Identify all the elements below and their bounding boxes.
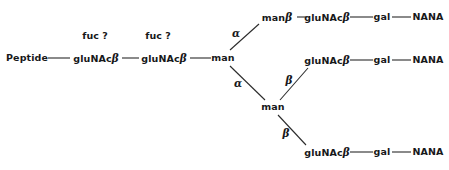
node-arm2-glunac-beta: β [343,54,350,66]
node-arm1-nana: NANA [412,12,443,22]
node-core-glunac-1-beta: β [112,52,119,64]
node-lower-man-label: man [261,101,284,112]
node-arm1-glunac: gluNAcβ [304,12,349,23]
node-upper-man-beta: β [285,11,292,23]
linkage-label-beta-arm2: β [286,75,293,86]
node-arm3-gal: gal [374,147,391,157]
node-core-glunac-2-beta: β [180,52,187,64]
node-arm1-glunac-stem: gluNAc [304,12,342,23]
node-arm2-glunac: gluNAcβ [304,55,349,66]
node-core-man: man [211,53,234,63]
node-arm2-gal: gal [374,55,391,65]
node-core-glunac-2: gluNAcβ [141,53,186,64]
bond-lines-layer [0,0,449,170]
node-arm3-nana-label: NANA [412,146,443,157]
node-core-man-label: man [211,52,234,63]
annotation-fuc-query-1: fuc ? [82,31,107,41]
node-lower-man: man [261,102,284,112]
node-arm1-nana-label: NANA [412,11,443,22]
node-peptide-label: Peptide [6,52,48,63]
node-upper-man-stem: man [262,12,285,23]
linkage-label-alpha-lower: α [234,78,242,89]
node-arm1-gal-label: gal [374,11,391,22]
linkage-label-beta-arm3: β [283,128,290,139]
node-arm1-glunac-beta: β [343,11,350,23]
node-upper-man: manβ [262,12,292,23]
linkage-label-alpha-upper: α [232,28,240,39]
node-arm3-glunac: gluNAcβ [304,147,349,158]
node-arm2-glunac-stem: gluNAc [304,55,342,66]
bond-line-lower-man-to-arm2-glunac-beta [280,68,308,100]
glycan-structure-diagram: Peptide gluNAcβ gluNAcβ man manβ gluNAcβ… [0,0,449,170]
node-peptide: Peptide [6,53,48,63]
node-core-glunac-2-stem: gluNAc [141,53,179,64]
node-arm2-nana-label: NANA [412,54,443,65]
node-arm3-glunac-stem: gluNAc [304,147,342,158]
annotation-fuc-query-2: fuc ? [145,31,170,41]
node-core-glunac-1-stem: gluNAc [73,53,111,64]
node-arm3-glunac-beta: β [343,146,350,158]
node-arm3-nana: NANA [412,147,443,157]
node-core-glunac-1: gluNAcβ [73,53,118,64]
node-arm2-gal-label: gal [374,54,391,65]
node-arm3-gal-label: gal [374,146,391,157]
node-arm2-nana: NANA [412,55,443,65]
node-arm1-gal: gal [374,12,391,22]
